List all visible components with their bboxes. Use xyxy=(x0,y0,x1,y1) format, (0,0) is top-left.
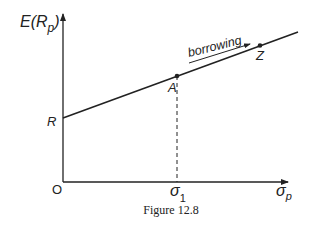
sigma1-label: σ1 xyxy=(170,182,186,204)
origin-label: O xyxy=(52,182,62,197)
point-a-label: A xyxy=(167,80,177,95)
y-axis-label: E(Rp) xyxy=(20,13,60,35)
intercept-label-r: R xyxy=(47,114,56,129)
figure-diagram: E(Rp) R O A Z borrowing σ1 σp Figure 12.… xyxy=(0,0,311,230)
figure-caption: Figure 12.8 xyxy=(143,203,198,217)
capital-market-line xyxy=(63,32,298,118)
point-z-label: Z xyxy=(255,48,265,63)
point-a xyxy=(175,74,180,79)
x-axis-label: σp xyxy=(276,182,292,202)
